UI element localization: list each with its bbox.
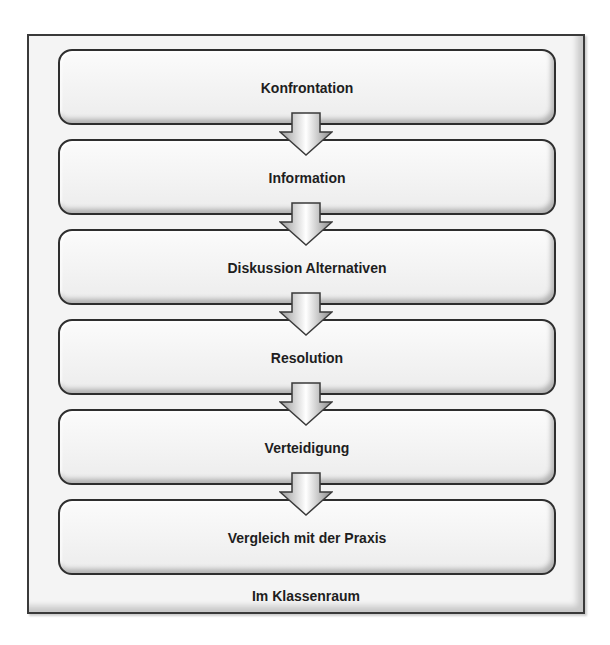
down-arrow-icon	[279, 382, 333, 426]
down-arrow-icon	[279, 202, 333, 246]
step-label: Resolution	[271, 350, 343, 366]
container-label: Im Klassenraum	[27, 588, 585, 604]
step-label: Konfrontation	[261, 80, 354, 96]
step-label: Diskussion Alternativen	[228, 260, 387, 276]
down-arrow-icon	[279, 292, 333, 336]
down-arrow-icon	[279, 472, 333, 516]
down-arrow-icon	[279, 112, 333, 156]
step-label: Information	[269, 170, 346, 186]
step-label: Verteidigung	[265, 440, 350, 456]
step-label: Vergleich mit der Praxis	[228, 530, 387, 546]
